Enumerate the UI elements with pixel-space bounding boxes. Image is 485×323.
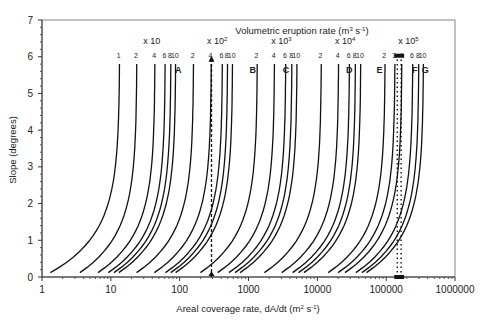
region-label-b: B [249,65,256,75]
x-tick-label: 100000 [369,284,403,295]
x-tick-label: 100 [171,284,188,295]
region-label-e: E [376,65,382,75]
x-tick-label: 10000 [303,284,331,295]
curves [50,64,423,273]
curve-label: 10 [292,52,300,59]
curve-label: 2 [255,52,259,59]
x-tick-label: 1 [39,284,45,295]
curve-label: 6 [347,52,351,59]
y-tick-label: 3 [27,161,33,172]
curve-label: 4 [209,52,213,59]
curve-label: 2 [191,52,195,59]
curve-label: 2 [319,52,323,59]
y-tick-label: 2 [27,198,33,209]
y-axis-title: Slope (degrees) [7,116,18,184]
curve-label: 10 [356,52,364,59]
region-label-a: A [175,65,182,75]
eruption-rate-chart: 012345671101001000100001000001000000 124… [0,0,485,323]
y-tick-label: 7 [27,15,33,26]
y-tick-label: 1 [27,235,33,246]
curve-label: 2 [134,52,138,59]
arrow-marker-icon [208,271,214,276]
y-tick-label: 6 [27,51,33,62]
x-tick-label: 10 [105,284,117,295]
curve-label: 6 [283,52,287,59]
region-label-f: F [412,65,418,75]
curve-label: 4 [152,52,156,59]
curve-label: 10 [419,52,427,59]
curve-label: 6 [220,52,224,59]
group-multiplier: x 10 [143,36,160,46]
labels: 1246810x 10246810x 102246810x 103246810x… [117,36,429,75]
curve-label: 1 [117,52,121,59]
x-axis-title: Areal coverage rate, dA/dt (m2 s-1) [176,303,319,314]
chart-title: Volumetric eruption rate (m3 s-1) [235,25,368,36]
curve-label: 10 [171,52,179,59]
y-tick-label: 5 [27,88,33,99]
region-label-d: D [346,65,353,75]
rate-curve [338,64,395,273]
curve-label: 4 [272,52,276,59]
x-tick-label: 1000000 [436,284,475,295]
x-tick-label: 1000 [237,284,260,295]
curve-label: 4 [399,52,403,59]
group-multiplier: x 104 [335,36,356,46]
y-tick-label: 0 [27,272,33,283]
curve-label: 2 [382,52,386,59]
region-label-c: C [283,65,290,75]
rate-curve [50,64,119,273]
curve-label: 6 [162,52,166,59]
rate-curve [235,64,292,273]
region-label-g: G [422,65,429,75]
group-multiplier: x 105 [398,36,419,46]
group-multiplier: x 102 [207,36,228,46]
bottom-marker [394,275,404,279]
curve-label: 10 [228,52,236,59]
curve-label: 6 [410,52,414,59]
rate-curve [114,64,171,273]
y-tick-label: 4 [27,125,33,136]
rate-curve [166,64,223,273]
curve-label: 3 [392,52,396,59]
curve-label: 4 [336,52,340,59]
annotations [208,54,404,279]
group-multiplier: x 103 [271,36,292,46]
rate-curve [218,64,275,273]
rate-curve [299,64,356,273]
